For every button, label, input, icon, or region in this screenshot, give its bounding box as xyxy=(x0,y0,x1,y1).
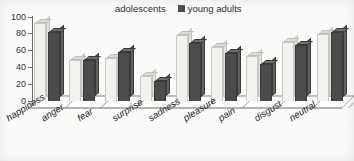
bar-surprise-young-adults xyxy=(154,81,166,100)
bar-front-face xyxy=(317,34,329,100)
bar-front-face xyxy=(189,43,201,101)
plot-area: 020406080100 happinessangerfearsurprises… xyxy=(0,0,354,161)
bar-anger-adolescents xyxy=(69,60,81,100)
bar-front-face xyxy=(105,58,117,101)
bar-front-face xyxy=(295,45,307,100)
x-axis-labels: happinessangerfearsurprisesadnesspleasur… xyxy=(0,108,354,161)
bar-pleasure-adolescents xyxy=(211,47,223,101)
bar-front-face xyxy=(225,53,237,100)
bar-happiness-adolescents xyxy=(34,23,46,100)
bar-front-face xyxy=(34,23,46,100)
bar-pleasure-young-adults xyxy=(225,53,237,100)
bar-disgust-young-adults xyxy=(295,45,307,100)
bar-pain-young-adults xyxy=(260,64,272,100)
bar-side-face xyxy=(343,24,347,96)
bar-sadness-young-adults xyxy=(189,43,201,101)
bar-happiness-young-adults xyxy=(48,32,60,101)
bar-neutral-young-adults xyxy=(331,32,343,101)
bar-front-face xyxy=(48,32,60,101)
bar-front-face xyxy=(140,76,152,100)
bar-front-face xyxy=(282,42,294,101)
bar-pain-adolescents xyxy=(246,56,258,101)
bar-side-face xyxy=(60,24,64,96)
bar-front-face xyxy=(118,52,130,101)
bar-front-face xyxy=(83,60,95,100)
bar-front-face xyxy=(69,60,81,100)
bar-side-face xyxy=(237,46,241,96)
bar-front-face xyxy=(154,81,166,100)
bar-front-face xyxy=(260,64,272,100)
bar-fear-adolescents xyxy=(105,58,117,101)
bar-side-face xyxy=(307,38,311,97)
bar-anger-young-adults xyxy=(83,60,95,100)
bar-side-face xyxy=(130,45,134,97)
bar-front-face xyxy=(211,47,223,101)
bar-neutral-adolescents xyxy=(317,34,329,100)
x-label-fear: fear xyxy=(75,105,95,123)
bar-surprise-adolescents xyxy=(140,76,152,100)
bar-fear-young-adults xyxy=(118,52,130,101)
bar-front-face xyxy=(331,32,343,101)
bar-chart: adolescents young adults 020406080100 ha… xyxy=(0,0,354,161)
bar-disgust-adolescents xyxy=(282,42,294,101)
bar-front-face xyxy=(246,56,258,101)
bar-sadness-adolescents xyxy=(176,35,188,101)
bar-front-face xyxy=(176,35,188,101)
x-label-pain: pain xyxy=(216,104,237,123)
bar-side-face xyxy=(201,35,205,96)
